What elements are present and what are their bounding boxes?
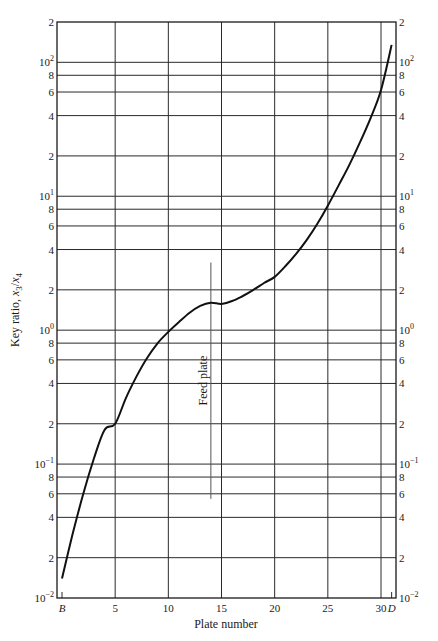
y-tick-label-left: 6 [49,354,55,366]
x-axis-label: Plate number [194,617,258,631]
y-tick-label-right: 2 [399,150,405,162]
x-tick-label: 15 [216,602,228,614]
y-tick-label-right: 8 [399,203,405,215]
chart: Feed plate 10−2246810−124681002468101246… [0,0,438,641]
y-axis-label: Key ratio, x3/x4 [8,273,24,347]
y-tick-label-right: 2 [399,552,405,564]
y-tick-label-right: 10−1 [399,456,419,470]
x-tick-label: 20 [269,602,281,614]
vertical-gridlines [62,22,392,598]
x-tick-label: 30 [376,602,388,614]
y-tick-label-left: 8 [49,69,55,81]
y-tick-label-right: 101 [399,188,414,202]
y-tick-label-right: 2 [399,284,405,296]
x-tick-label: B [59,602,66,614]
y-tick-label-right: 4 [399,110,405,122]
y-tick-label-right: 6 [399,488,405,500]
feed-plate-label: Feed plate [196,356,210,406]
y-tick-label-right: 6 [399,86,405,98]
y-tick-label-right: 4 [399,511,405,523]
y-tick-label-left: 102 [39,54,54,68]
y-tick-label-left: 10−2 [34,590,54,604]
y-tick-labels-left: 10−2246810−12468100246810124681022 [34,16,54,604]
y-tick-label-right: 8 [399,337,405,349]
y-tick-label-left: 2 [49,16,55,28]
y-tick-label-left: 4 [49,511,55,523]
x-tick-labels: B51015202530D [59,602,396,614]
y-tick-label-left: 8 [49,337,55,349]
y-tick-label-right: 102 [399,54,414,68]
y-tick-label-right: 10−2 [399,590,419,604]
y-tick-label-left: 2 [49,150,55,162]
x-tick-label: D [387,602,396,614]
y-tick-label-right: 8 [399,69,405,81]
x-tick-label: 25 [322,602,334,614]
y-tick-label-right: 8 [399,471,405,483]
y-tick-label-left: 2 [49,552,55,564]
y-tick-label-left: 2 [49,284,55,296]
y-tick-label-left: 6 [49,220,55,232]
y-tick-label-left: 4 [49,377,55,389]
series-line-key-ratio [62,45,392,579]
y-tick-label-left: 101 [39,188,54,202]
y-tick-label-right: 4 [399,377,405,389]
y-tick-label-left: 100 [39,322,54,336]
y-tick-label-left: 2 [49,418,55,430]
plot-frame [57,22,396,598]
y-tick-label-left: 6 [49,86,55,98]
y-tick-label-left: 8 [49,203,55,215]
feed-plate-annotation: Feed plate [196,263,211,499]
y-tick-label-left: 8 [49,471,55,483]
y-tick-label-left: 10−1 [34,456,54,470]
y-tick-label-left: 4 [49,110,55,122]
x-tick-label: 10 [163,602,175,614]
y-tick-label-right: 6 [399,220,405,232]
y-tick-label-right: 100 [399,322,414,336]
y-tick-labels-right: 10−2246810−12468100246810124681022 [399,16,419,604]
y-tick-label-left: 4 [49,244,55,256]
y-tick-label-right: 2 [399,418,405,430]
x-tick-label: 5 [112,602,118,614]
y-tick-label-right: 2 [399,16,405,28]
y-tick-label-right: 6 [399,354,405,366]
y-tick-label-left: 6 [49,488,55,500]
y-tick-label-right: 4 [399,244,405,256]
horizontal-gridlines [57,62,396,557]
